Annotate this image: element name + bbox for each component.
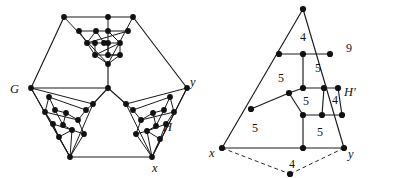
label-H: H [162, 120, 173, 134]
face-number-4-right: 4 [332, 93, 338, 107]
label-x-left: x [151, 161, 158, 175]
left-graph-G: G y H x [10, 14, 196, 175]
center-spokes [31, 64, 126, 104]
right-bottom-cluster [126, 88, 187, 157]
face-number-5-lower-right: 5 [317, 125, 323, 139]
dashed-bottom-edges [222, 148, 344, 174]
right-graph-H-prime: 4 5 5 5 4 5 5 4 9 H' x y [208, 6, 356, 177]
left-graph-vertices [28, 14, 190, 160]
figure-root: G y H x [0, 0, 394, 178]
outer-face-number-9: 9 [346, 41, 352, 55]
face-number-4-top: 4 [300, 30, 306, 44]
inner-edges [251, 54, 342, 148]
label-H-prime: H' [343, 85, 356, 99]
label-G: G [10, 82, 19, 96]
face-number-5-lower-left: 5 [252, 121, 258, 135]
face-number-5-upper-left: 5 [278, 71, 284, 85]
label-y-left: y [188, 75, 196, 89]
face-number-5-center: 5 [303, 94, 309, 108]
face-number-4-bottom: 4 [289, 157, 295, 171]
figure-svg: G y H x [0, 0, 394, 178]
top-cluster [64, 17, 133, 64]
label-x-right: x [208, 146, 215, 160]
face-number-5-upper-right: 5 [315, 61, 321, 75]
label-y-right: y [346, 147, 354, 161]
